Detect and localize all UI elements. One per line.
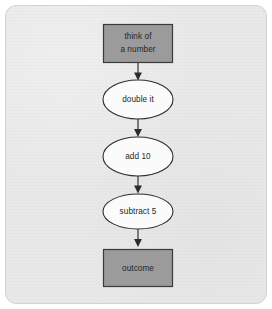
node-think-of-a-number[interactable]: think of a number — [104, 25, 173, 63]
node-double-it-label: double it — [122, 95, 154, 104]
node-add-10-label: add 10 — [125, 152, 151, 161]
edge-2-arrowhead-icon — [134, 129, 142, 137]
node-think-of-a-number-label-line1: think of — [124, 32, 152, 41]
edge-subtract-5-to-outcome — [134, 229, 142, 247]
edge-3-arrowhead-icon — [134, 186, 142, 194]
edge-double-it-to-add-10 — [134, 119, 142, 137]
node-add-10[interactable]: add 10 — [103, 137, 173, 176]
node-subtract-5[interactable]: subtract 5 — [103, 194, 173, 229]
edge-think-of-a-number-to-double-it — [134, 63, 142, 81]
node-outcome-label: outcome — [122, 264, 154, 273]
node-think-of-a-number-label-line2: a number — [120, 45, 155, 54]
node-think-of-a-number-shape — [104, 25, 173, 63]
node-double-it[interactable]: double it — [103, 80, 173, 119]
edge-4-arrowhead-icon — [134, 239, 142, 247]
flowchart-diagram: think of a number double it add 10 — [0, 0, 272, 309]
flowchart-page: think of a number double it add 10 — [0, 0, 272, 309]
node-subtract-5-label: subtract 5 — [120, 207, 157, 216]
edge-1-arrowhead-icon — [134, 73, 142, 81]
edge-add-10-to-subtract-5 — [134, 176, 142, 194]
node-outcome[interactable]: outcome — [104, 250, 173, 287]
